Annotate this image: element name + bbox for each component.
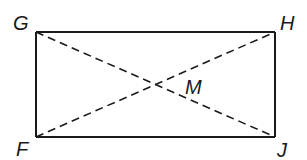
label-h: H — [280, 12, 295, 34]
label-m: M — [185, 76, 202, 98]
diagram-canvas: G H F J M — [0, 0, 307, 160]
rectangle-diagram: G H F J M — [0, 0, 307, 160]
label-g: G — [13, 12, 29, 34]
label-j: J — [276, 139, 288, 160]
label-f: F — [16, 138, 30, 160]
